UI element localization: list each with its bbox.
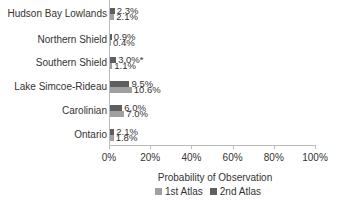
x-tick xyxy=(150,145,151,149)
x-tick-label: 60% xyxy=(223,152,243,163)
category-label: Hudson Bay Lowlands xyxy=(7,8,107,20)
value-label: 2.1% xyxy=(116,13,138,21)
x-tick xyxy=(315,145,316,149)
category-label: Southern Shield xyxy=(36,57,107,69)
x-axis-label: Probability of Observation xyxy=(140,172,290,183)
value-label: 1.1% xyxy=(114,62,136,70)
category-label: Ontario xyxy=(74,129,107,141)
bar-1st-atlas xyxy=(110,135,114,141)
x-tick xyxy=(191,145,192,149)
legend-swatch-2nd-atlas xyxy=(210,188,217,195)
legend: 1st Atlas 2nd Atlas xyxy=(155,186,261,197)
value-label: 0.4% xyxy=(113,39,135,47)
x-tick-label: 100% xyxy=(302,152,328,163)
x-tick-label: 0% xyxy=(102,152,116,163)
x-axis-line xyxy=(109,145,315,146)
x-tick-label: 80% xyxy=(264,152,284,163)
category-label: Northern Shield xyxy=(38,34,107,46)
value-label: 7.0% xyxy=(126,110,148,118)
bar-1st-atlas xyxy=(110,87,132,93)
bar-1st-atlas xyxy=(110,14,114,20)
bar-1st-atlas xyxy=(110,63,112,69)
bar-1st-atlas xyxy=(110,40,111,46)
bar-1st-atlas xyxy=(110,111,124,117)
legend-label-1st-atlas: 1st Atlas xyxy=(165,186,203,197)
x-tick-label: 20% xyxy=(140,152,160,163)
category-label: Lake Simcoe-Rideau xyxy=(14,81,107,93)
x-tick xyxy=(233,145,234,149)
value-label: 1.8% xyxy=(116,134,138,142)
x-tick xyxy=(109,145,110,149)
x-tick-label: 40% xyxy=(181,152,201,163)
y-axis-line xyxy=(109,0,110,145)
value-label: 10.6% xyxy=(134,86,161,94)
category-label: Carolinian xyxy=(62,105,107,117)
x-tick xyxy=(274,145,275,149)
legend-label-2nd-atlas: 2nd Atlas xyxy=(220,186,261,197)
legend-swatch-1st-atlas xyxy=(155,188,162,195)
